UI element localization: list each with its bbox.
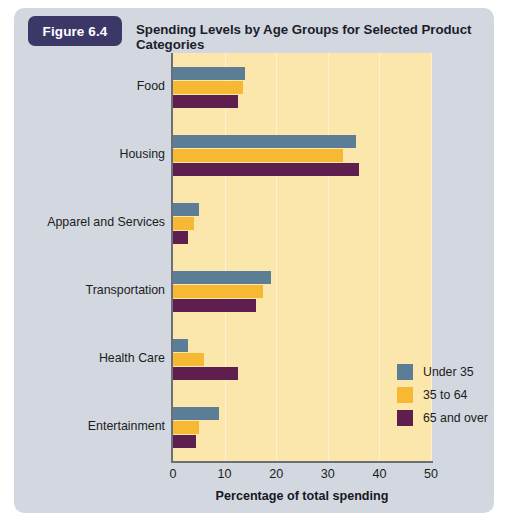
bar <box>173 367 238 380</box>
x-tick-label: 0 <box>169 467 176 481</box>
bar <box>173 285 263 298</box>
y-axis-category-label: Food <box>0 79 165 93</box>
chart-plot: FoodHousingApparel and ServicesTransport… <box>28 53 508 521</box>
x-axis-title: Percentage of total spending <box>171 489 433 503</box>
bar <box>173 435 196 448</box>
legend-label: 35 to 64 <box>423 388 467 402</box>
legend-item: 35 to 64 <box>397 383 488 406</box>
y-axis-line <box>171 53 173 463</box>
x-axis-line <box>171 461 433 463</box>
y-axis-category-label: Apparel and Services <box>0 215 165 229</box>
bar <box>173 135 356 148</box>
x-tick-label: 20 <box>269 467 283 481</box>
y-axis-category-label: Transportation <box>0 283 165 297</box>
bar <box>173 231 188 244</box>
bar <box>173 339 188 352</box>
bar <box>173 203 199 216</box>
gridline <box>276 53 277 461</box>
figure-title: Spending Levels by Age Groups for Select… <box>136 22 521 52</box>
legend-swatch <box>397 387 413 403</box>
bar <box>173 95 238 108</box>
chart-legend: Under 3535 to 6465 and over <box>397 360 488 429</box>
bar <box>173 217 194 230</box>
gridline <box>225 53 226 461</box>
bar <box>173 353 204 366</box>
y-axis-category-label: Housing <box>0 147 165 161</box>
bar <box>173 149 343 162</box>
gridline <box>328 53 329 461</box>
legend-swatch <box>397 410 413 426</box>
legend-item: Under 35 <box>397 360 488 383</box>
bar <box>173 67 245 80</box>
bar <box>173 299 256 312</box>
figure-number-badge: Figure 6.4 <box>28 16 122 46</box>
legend-label: 65 and over <box>423 411 488 425</box>
bar <box>173 271 271 284</box>
plot-background <box>171 53 431 461</box>
bar <box>173 163 359 176</box>
bar <box>173 407 219 420</box>
gridline <box>379 53 380 461</box>
bar <box>173 81 243 94</box>
y-axis-category-label: Health Care <box>0 351 165 365</box>
legend-swatch <box>397 364 413 380</box>
x-tick-label: 10 <box>218 467 232 481</box>
figure-card: Figure 6.4 Spending Levels by Age Groups… <box>14 8 494 513</box>
y-axis-category-label: Entertainment <box>0 419 165 433</box>
x-tick-label: 40 <box>372 467 386 481</box>
x-tick-label: 50 <box>424 467 438 481</box>
x-tick-label: 30 <box>321 467 335 481</box>
figure-number-label: Figure 6.4 <box>43 24 108 39</box>
legend-item: 65 and over <box>397 406 488 429</box>
bar <box>173 421 199 434</box>
legend-label: Under 35 <box>423 365 474 379</box>
